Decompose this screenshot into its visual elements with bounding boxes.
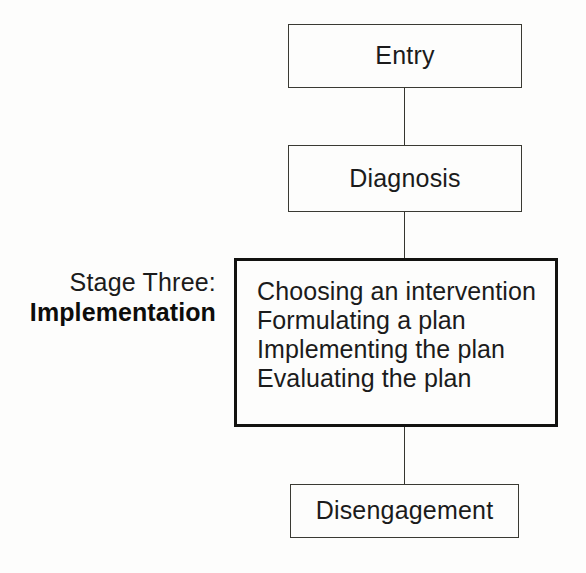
implementation-step-list: Choosing an intervention Formulating a p… [257, 277, 555, 393]
implementation-step-item: Implementing the plan [257, 335, 555, 364]
implementation-step-item: Choosing an intervention [257, 277, 555, 306]
connector-diagnosis-to-implementation [404, 211, 405, 260]
connector-implementation-to-disengagement [404, 425, 405, 485]
node-implementation[interactable]: Choosing an intervention Formulating a p… [234, 258, 558, 427]
implementation-step-item: Evaluating the plan [257, 364, 555, 393]
stage-three-caption-line2: Implementation [16, 297, 216, 327]
node-disengagement-label: Disengagement [316, 497, 494, 525]
node-entry[interactable]: Entry [288, 24, 522, 88]
node-diagnosis[interactable]: Diagnosis [288, 145, 522, 212]
flowchart-canvas: Entry Diagnosis Stage Three: Implementat… [0, 0, 586, 573]
node-diagnosis-label: Diagnosis [349, 165, 461, 193]
connector-entry-to-diagnosis [404, 87, 405, 146]
node-entry-label: Entry [375, 42, 434, 70]
implementation-step-item: Formulating a plan [257, 306, 555, 335]
stage-three-caption: Stage Three: Implementation [16, 268, 216, 327]
node-disengagement[interactable]: Disengagement [290, 484, 519, 538]
stage-three-caption-line1: Stage Three: [16, 268, 216, 297]
